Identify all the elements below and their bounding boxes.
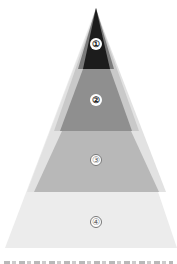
clipped-caption: [4, 258, 173, 264]
layer-1-label: ①: [90, 38, 102, 50]
pyramid-diagram: [0, 0, 177, 264]
layer-2-label: ②: [90, 94, 102, 106]
layer-3-label: ③: [90, 154, 102, 166]
layer-4-label: ④: [90, 216, 102, 228]
